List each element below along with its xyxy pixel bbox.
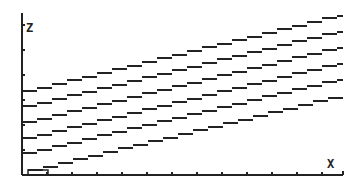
- series-line-5: [22, 80, 343, 153]
- series-line-2: [22, 32, 343, 106]
- series-line-4: [22, 64, 343, 138]
- x-axis-label: X: [327, 157, 335, 171]
- series-lines: [22, 16, 343, 170]
- series-line-1: [22, 16, 343, 91]
- trace-cursor-box: [28, 170, 48, 175]
- chart-plot-area: Z X: [0, 0, 361, 190]
- y-axis-label: Z: [26, 21, 33, 35]
- series-line-3: [22, 48, 343, 122]
- series-line-6: [28, 98, 343, 170]
